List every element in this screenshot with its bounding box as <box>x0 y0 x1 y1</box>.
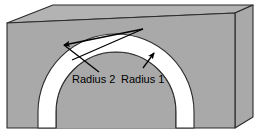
radius-2-label: Radius 2 <box>72 73 115 85</box>
radius-1-label: Radius 1 <box>121 73 164 85</box>
arched-block-diagram: Radius 2 Radius 1 <box>0 0 261 137</box>
block-right-face <box>235 5 253 128</box>
diagram-root: Radius 2 Radius 1 <box>0 0 261 137</box>
